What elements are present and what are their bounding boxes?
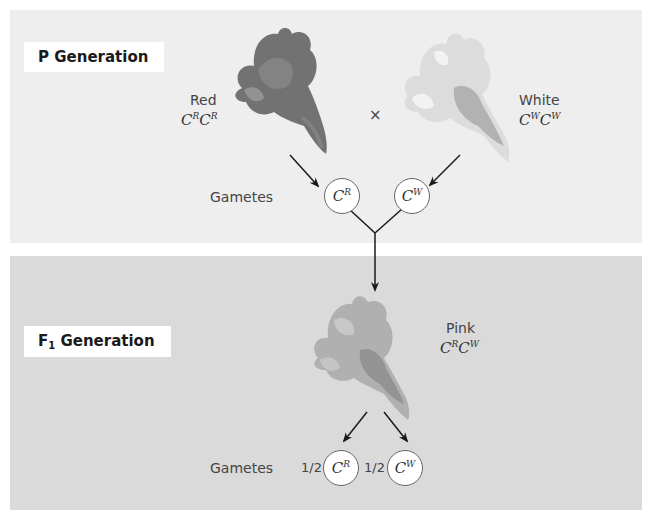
cross-symbol: × [369, 107, 382, 123]
arrow-f1-to-gamete-w [384, 412, 407, 441]
f1-gamete-cr: CR [323, 450, 359, 486]
f1-gamete-cw-fraction: 1/2 [364, 460, 385, 475]
diagram-arrows [0, 0, 650, 529]
pink-offspring-genotype: CRCW [440, 336, 479, 356]
f1-gamete-cw: CW [387, 450, 423, 486]
red-parent-genotype: CRCR [181, 108, 218, 128]
f1-gametes-label: Gametes [210, 460, 273, 476]
arrow-red-to-gamete [290, 155, 318, 186]
p-gametes-label: Gametes [210, 189, 273, 205]
white-parent-genotype: CWCW [519, 108, 561, 128]
white-parent-label: White CWCW [519, 92, 561, 128]
red-parent-label: Red CRCR [181, 92, 218, 128]
p-gamete-cr: CR [324, 178, 360, 214]
arrow-white-to-gamete [430, 155, 460, 185]
pink-offspring-label: Pink CRCW [440, 320, 479, 356]
f1-gamete-cr-fraction: 1/2 [301, 460, 322, 475]
p-gamete-cw: CW [394, 178, 430, 214]
arrow-f1-to-gamete-r [344, 412, 367, 441]
